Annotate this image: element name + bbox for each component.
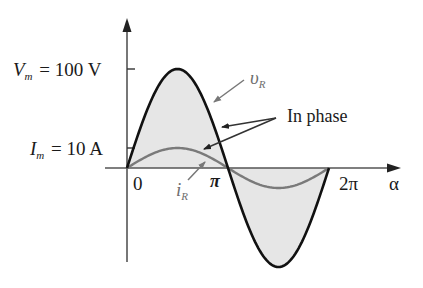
vr-symbol: υ bbox=[250, 67, 259, 88]
vr-pointer-arrow bbox=[214, 80, 244, 102]
vm-label: Vm = 100 V bbox=[13, 60, 101, 79]
im-value: = 10 A bbox=[51, 138, 103, 159]
vr-label: υR bbox=[250, 68, 265, 87]
vr-subscript: R bbox=[259, 78, 266, 90]
x-axis-arrow-icon bbox=[387, 164, 401, 173]
phase-diagram: Vm = 100 V Im = 10 A 0 π 2π α υR iR In p… bbox=[0, 0, 423, 288]
im-subscript: m bbox=[36, 149, 44, 161]
vm-subscript: m bbox=[25, 70, 33, 82]
in-phase-annotation: In phase bbox=[287, 107, 347, 125]
vm-value: = 100 V bbox=[39, 59, 101, 80]
alpha-axis-label: α bbox=[389, 174, 399, 193]
ir-subscript: R bbox=[181, 190, 188, 202]
origin-label: 0 bbox=[133, 174, 143, 193]
ir-label: iR bbox=[176, 180, 188, 199]
vm-symbol: V bbox=[13, 59, 25, 80]
im-label: Im = 10 A bbox=[30, 139, 103, 158]
in-phase-arrow-voltage bbox=[222, 118, 276, 127]
pi-label: π bbox=[210, 172, 220, 190]
y-axis-arrow-icon bbox=[123, 18, 132, 32]
two-pi-label: 2π bbox=[339, 174, 358, 193]
